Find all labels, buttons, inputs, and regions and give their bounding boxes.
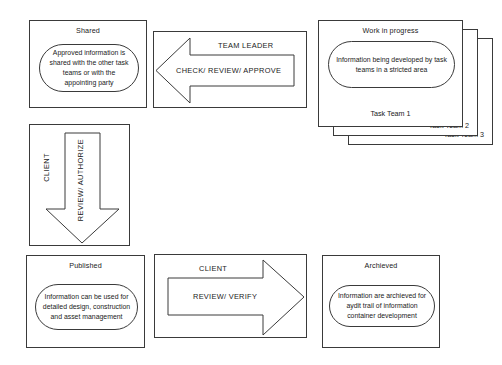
arrow-caption-client-verify-actor: CLIENT <box>199 264 227 273</box>
arrow-caption-team-leader-action: CHECK/ REVIEW/ APPROVE <box>176 66 281 75</box>
capsule-work-in-progress-body: Information being developed by task team… <box>328 41 455 88</box>
state-box-published[interactable]: Published Information can be used for de… <box>26 255 145 348</box>
state-box-shared[interactable]: Shared Approved information is shared wi… <box>29 20 147 108</box>
state-title-shared: Shared <box>30 27 146 35</box>
capsule-published-body: Information can be used for detailed des… <box>35 284 138 330</box>
arrow-caption-client-authorize-actor: CLIENT <box>42 153 51 182</box>
capsule-shared-body: Approved information is shared with the … <box>39 44 139 92</box>
state-title-published: Published <box>27 262 144 270</box>
capsule-archived-body: Information are archieved for aydit trai… <box>329 285 435 327</box>
state-title-archived: Archieved <box>323 262 439 270</box>
state-title-work-in-progress: Work in progress <box>319 27 462 35</box>
state-box-archived[interactable]: Archieved Information are archieved for … <box>322 255 440 348</box>
arrow-caption-client-authorize-action: REVIEW/ AUTHORIZE <box>76 139 85 221</box>
arrow-caption-client-verify-action: REVIEW/ VERIFY <box>193 292 257 301</box>
stack-label-task-team-1: Task Team 1 <box>319 109 462 118</box>
arrow-box-team-leader[interactable]: TEAM LEADER CHECK/ REVIEW/ APPROVE <box>153 31 307 108</box>
arrow-box-client-verify[interactable]: CLIENT REVIEW/ VERIFY <box>154 254 307 338</box>
workflow-diagram: Shared Approved information is shared wi… <box>0 0 502 365</box>
stack-card-work-in-progress[interactable]: Work in progress Information being devel… <box>318 20 463 127</box>
arrow-caption-team-leader-actor: TEAM LEADER <box>218 41 273 50</box>
arrow-box-client-authorize[interactable]: CLIENT REVIEW/ AUTHORIZE <box>29 124 130 246</box>
